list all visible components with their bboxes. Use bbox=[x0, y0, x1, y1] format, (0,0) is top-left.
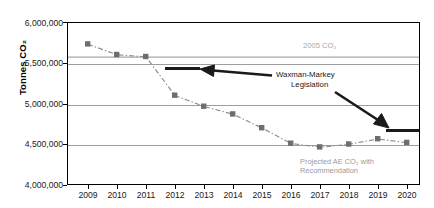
co2-emissions-chart: Tonnes CO₂ 6,000,000 5,500,000 5,000,000… bbox=[0, 0, 434, 208]
x-tickmark-2013 bbox=[204, 185, 205, 189]
annotation-waxman-markey-line2: Legislation bbox=[291, 80, 328, 90]
y-tick-label-4000000: 4,000,000 bbox=[5, 180, 63, 190]
y-tick-label-5000000: 5,000,000 bbox=[5, 99, 63, 109]
y-tick-label-4500000: 4,500,000 bbox=[5, 139, 63, 149]
y-tick-label-5500000: 5,500,000 bbox=[5, 58, 63, 68]
gridline-4500000 bbox=[68, 145, 419, 146]
x-tickmark-2019 bbox=[378, 185, 379, 189]
annotation-waxman-markey-line1: Waxman-Markey bbox=[276, 70, 335, 80]
x-tickmark-2012 bbox=[175, 185, 176, 189]
x-tickmark-2016 bbox=[291, 185, 292, 189]
reference-line-label-2005-co2: 2005 CO₂ bbox=[303, 41, 336, 50]
y-tick-label-6000000: 6,000,000 bbox=[5, 18, 63, 28]
y-axis-tick-labels: 6,000,000 5,500,000 5,000,000 4,500,000 … bbox=[0, 0, 63, 208]
y-tickmark-4000000 bbox=[63, 185, 67, 186]
x-tickmark-2018 bbox=[349, 185, 350, 189]
x-tick-label-2020: 2020 bbox=[390, 190, 424, 200]
gridline-5500000 bbox=[68, 64, 419, 65]
x-tickmark-2009 bbox=[88, 185, 89, 189]
x-tickmark-2015 bbox=[262, 185, 263, 189]
x-tickmark-2014 bbox=[233, 185, 234, 189]
x-tickmark-2010 bbox=[117, 185, 118, 189]
x-tickmark-2011 bbox=[146, 185, 147, 189]
x-tickmark-2017 bbox=[320, 185, 321, 189]
annotation-projected-ae-co2-line2: Recommendation bbox=[300, 166, 358, 176]
gridline-5000000 bbox=[68, 105, 419, 106]
x-tickmark-2020 bbox=[407, 185, 408, 189]
